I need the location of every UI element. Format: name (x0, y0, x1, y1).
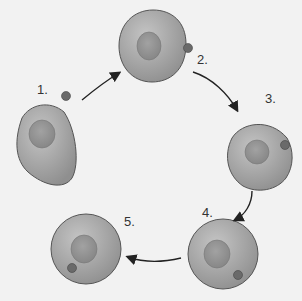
cell-step-1 (17, 105, 76, 185)
step-label-5: 5. (124, 214, 135, 229)
particle-step-1 (62, 92, 71, 101)
arrow-4-to-5 (128, 257, 181, 261)
particle-step-4 (234, 271, 243, 280)
arrow-3-to-4 (235, 191, 252, 220)
arrow-2-to-3 (193, 72, 237, 110)
arrow-1-to-2 (82, 73, 119, 100)
step-label-4: 4. (202, 205, 213, 220)
endocytosis-diagram: 1. 2. 3. 4. 5. (0, 0, 302, 301)
cell-step-2 (119, 10, 186, 82)
step-label-1: 1. (37, 82, 48, 97)
particle-step-5 (68, 264, 77, 273)
particle-step-3 (281, 141, 290, 150)
step-label-2: 2. (197, 52, 208, 67)
cell-step-5 (51, 214, 121, 284)
particle-step-2 (184, 44, 193, 53)
cell-step-4 (188, 219, 258, 289)
step-label-3: 3. (265, 91, 276, 106)
cell-step-3 (228, 124, 293, 190)
